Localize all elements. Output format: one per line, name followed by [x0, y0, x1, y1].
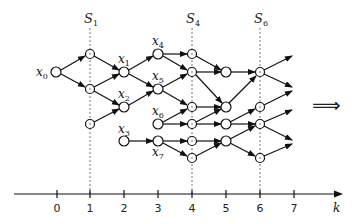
- section-label-4-sub: 4: [195, 19, 200, 28]
- edge: [264, 110, 292, 122]
- axis-arrowhead-icon: [334, 191, 343, 198]
- edge: [230, 126, 255, 139]
- node-dots: [89, 53, 260, 158]
- tick-label-1: 1: [87, 202, 94, 215]
- edge: [264, 126, 292, 140]
- tick-label-0: 0: [54, 202, 61, 215]
- tick-label-6: 6: [257, 202, 264, 215]
- edge: [196, 56, 221, 70]
- edge: [264, 91, 292, 105]
- label-x1: x1: [118, 52, 130, 68]
- edge: [264, 56, 292, 70]
- edge: [163, 91, 187, 105]
- label-x0: x0: [36, 65, 48, 81]
- edge: [196, 143, 221, 156]
- label-x5: x5: [152, 69, 164, 85]
- edge: [163, 74, 187, 87]
- node: [221, 119, 231, 129]
- edge: [196, 109, 221, 122]
- label-x4: x4: [152, 34, 164, 50]
- edge: [94, 56, 119, 70]
- edge: [61, 56, 85, 70]
- edge: [196, 75, 222, 103]
- section-label-6-text: S: [254, 11, 263, 26]
- label-x2: x2: [118, 87, 130, 103]
- label-x6: x6: [152, 104, 164, 120]
- axis-label-k: k: [333, 201, 340, 215]
- section-label-4: S4: [186, 11, 200, 28]
- trellis-diagram: S1 S4 S6: [0, 0, 355, 224]
- section-label-1-sub: 1: [93, 19, 98, 28]
- node: [221, 136, 231, 146]
- label-x3: x3: [118, 122, 130, 138]
- node-x1: [119, 67, 129, 77]
- node-labels: x0 x1 x2 x3 x4 x5 x6 x7: [36, 34, 164, 161]
- tick-label-5: 5: [223, 202, 230, 215]
- edge: [163, 143, 187, 156]
- tick-label-2: 2: [121, 202, 128, 215]
- node-x5: [153, 84, 163, 94]
- edge: [94, 91, 119, 105]
- node: [221, 67, 231, 77]
- tick-label-3: 3: [155, 202, 162, 215]
- section-label-4-text: S: [186, 11, 195, 26]
- node: [221, 102, 231, 112]
- edge: [61, 74, 85, 87]
- edge: [163, 56, 187, 70]
- section-label-6: S6: [254, 11, 268, 28]
- edge: [129, 91, 153, 105]
- tick-label-7: 7: [291, 202, 298, 215]
- edge: [94, 74, 119, 87]
- section-labels: S1 S4 S6: [84, 11, 268, 28]
- edge: [230, 143, 255, 156]
- node-x2: [119, 102, 129, 112]
- edge: [229, 76, 256, 103]
- section-label-1-text: S: [84, 11, 93, 26]
- tick-label-4: 4: [189, 202, 196, 215]
- edge: [163, 109, 187, 122]
- implies-arrow-icon: ⟹: [312, 93, 341, 117]
- edge: [94, 109, 119, 122]
- edge: [129, 74, 153, 87]
- node-x0: [51, 67, 61, 77]
- edge: [264, 144, 292, 156]
- label-x7: x7: [152, 145, 164, 161]
- section-label-1: S1: [84, 11, 98, 28]
- node-x6: [153, 119, 163, 129]
- edge: [129, 56, 153, 70]
- time-axis: 0 1 2 3 4 5 6 7 k: [14, 190, 343, 215]
- edge: [230, 109, 255, 122]
- node-x4: [153, 49, 163, 59]
- edge: [264, 74, 292, 87]
- section-label-6-sub: 6: [263, 19, 268, 28]
